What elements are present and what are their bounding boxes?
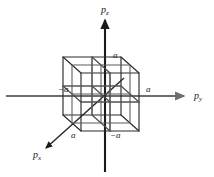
axis-subscript-px: x	[38, 154, 41, 162]
tick-label-pz-positive: a	[113, 51, 118, 60]
axis-label-py: py	[194, 91, 202, 103]
tick-label-pz-negative: −a	[110, 131, 121, 140]
tick-label-px-positive: a	[71, 131, 76, 140]
momentum-cube-figure: pz py px a −a a a −a	[0, 0, 214, 177]
cube-group	[63, 57, 139, 131]
tick-label-py-positive: a	[146, 85, 151, 94]
axis-subscript-py: y	[199, 95, 202, 103]
axis-subscript-pz: z	[106, 9, 109, 17]
axis-label-pz: pz	[101, 5, 109, 17]
axis-label-px: px	[33, 150, 41, 162]
tick-label-py-negative: −a	[58, 85, 69, 94]
